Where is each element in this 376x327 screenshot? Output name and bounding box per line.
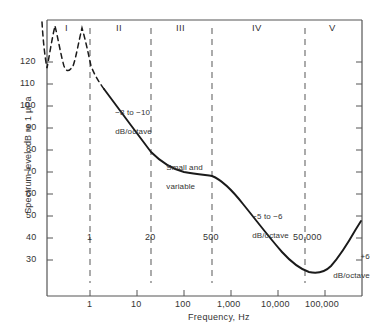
region-label-i: I [65,22,68,33]
annotation-slope1-line2: dB/octave [115,127,151,136]
annotation-slope1-line1: −8 to −10 [115,108,150,117]
x-tick-label-10000: 10,000 [261,299,290,309]
divider-label-500: 500 [203,232,219,242]
region-label-iii: III [176,22,185,33]
divider-label-20: 20 [145,232,155,242]
x-tick-label-1: 1 [87,299,92,309]
annotation-slope3-line2: dB/octave [333,271,369,280]
x-tick-label-100: 100 [175,299,191,309]
y-tick-label-100: 100 [20,100,36,110]
y-axis-ticks-right [356,62,362,260]
y-tick-label-90: 90 [26,122,36,132]
x-tick-label-100000: 100,000 [305,299,339,309]
y-tick-label-120: 120 [20,56,36,66]
annotation-slope2-line2: dB/octave [252,231,288,240]
x-axis-ticks [90,290,325,296]
divider-label-1: 1 [87,232,92,242]
annotation-slope2-line1: −5 to −6 [252,212,282,221]
region-label-ii: II [116,22,122,33]
spectrum-level-chart: Spectrum level, dB re 1 µPa 120 110 100 … [0,0,376,327]
x-tick-label-10: 10 [131,299,141,309]
x-axis-title: Frequency, Hz [188,312,250,322]
y-tick-label-40: 40 [26,232,36,242]
y-axis-ticks [47,62,53,260]
y-tick-label-80: 80 [26,144,36,154]
region-label-v: V [329,22,336,33]
divider-label-50000: 50,000 [293,232,322,242]
x-tick-label-1000: 1,000 [217,299,241,309]
y-tick-label-50: 50 [26,210,36,220]
y-tick-label-30: 30 [26,254,36,264]
annotation-slope-minus5-to-minus6: −5 to −6 dB/octave [243,202,289,250]
region-label-iv: IV [252,22,262,33]
annotation-flat-line2: variable [166,182,195,191]
annotation-slope3-line1: +6 [360,252,369,261]
annotation-slope-plus6: +6 dB/octave [324,242,370,290]
y-tick-label-110: 110 [20,78,35,88]
annotation-small-and-variable: Small and variable [157,153,203,201]
y-tick-label-70: 70 [26,166,36,176]
annotation-slope-minus8-to-minus10: −8 to −10 dB/octave [106,98,152,146]
annotation-flat-line1: Small and [166,163,202,172]
y-tick-label-60: 60 [26,188,36,198]
curve-dashed-segment [42,22,104,89]
axis-lines [47,20,362,296]
